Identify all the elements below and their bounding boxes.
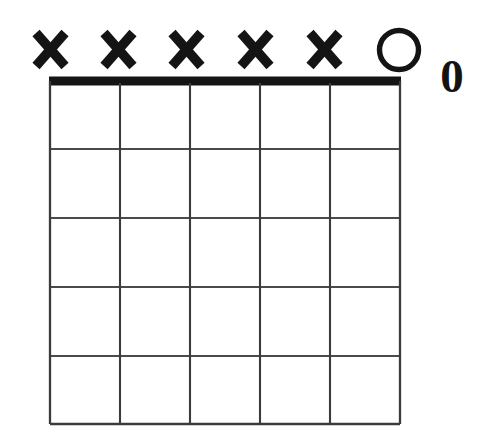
string-marker-4-muted-x-icon [241,33,270,66]
fret-number-label: 0 [440,50,464,102]
chord-diagram: 0 [0,0,494,443]
string-marker-row [36,31,419,70]
fretboard-grid [49,81,401,424]
string-marker-5-muted-x-icon [310,33,339,66]
string-marker-6-open-o-icon [380,31,419,70]
chord-diagram-canvas: 0 [0,0,494,443]
string-marker-1-muted-x-icon [36,33,65,66]
string-marker-2-muted-x-icon [104,33,133,66]
string-marker-3-muted-x-icon [172,33,201,66]
